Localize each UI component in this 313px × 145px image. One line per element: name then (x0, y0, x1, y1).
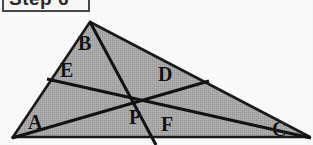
label-C: C (272, 119, 286, 139)
caption-text: Step 6 (9, 0, 69, 8)
label-F: F (161, 114, 173, 134)
label-B: B (78, 33, 91, 53)
label-D: D (158, 64, 172, 84)
geometry-diagram (0, 0, 313, 145)
label-E: E (60, 60, 73, 80)
label-P: P (129, 107, 141, 127)
figure-canvas: A B C D E F P Step 6 (0, 0, 313, 145)
caption-box: Step 6 (2, 0, 90, 12)
label-A: A (28, 112, 42, 132)
